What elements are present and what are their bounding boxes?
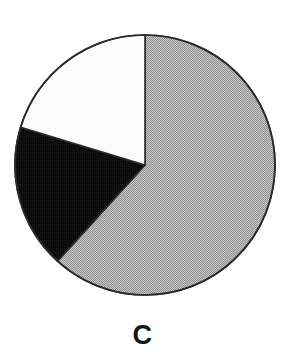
pie-chart-canvas (0, 0, 285, 361)
pie-chart-figure: C (0, 0, 285, 361)
pie-slices-group (15, 35, 275, 295)
chart-caption-label: C (0, 318, 285, 352)
